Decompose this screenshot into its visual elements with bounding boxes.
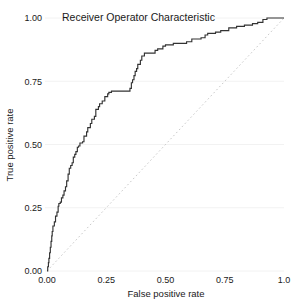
x-tick-label-3: 0.75: [216, 275, 234, 285]
roc-chart: 0.000.250.500.751.0 0.000.250.500.751.00…: [0, 0, 300, 307]
roc-chart-svg: 0.000.250.500.751.0 0.000.250.500.751.00…: [0, 0, 300, 307]
x-tick-label-0: 0.00: [38, 275, 56, 285]
chart-background: [0, 0, 300, 307]
y-tick-label-1: 0.25: [24, 203, 42, 213]
y-axis-title: True positive rate: [4, 108, 15, 181]
y-tick-label-4: 1.00: [24, 13, 42, 23]
x-tick-label-1: 0.25: [97, 275, 115, 285]
y-tick-label-0: 0.00: [24, 266, 42, 276]
chart-title: Receiver Operator Characteristic: [62, 11, 215, 23]
y-tick-label-2: 0.50: [24, 140, 42, 150]
x-tick-label-2: 0.50: [157, 275, 175, 285]
x-axis-title: False positive rate: [127, 288, 204, 299]
x-tick-label-4: 1.0: [278, 275, 291, 285]
y-tick-label-3: 0.75: [24, 77, 42, 87]
